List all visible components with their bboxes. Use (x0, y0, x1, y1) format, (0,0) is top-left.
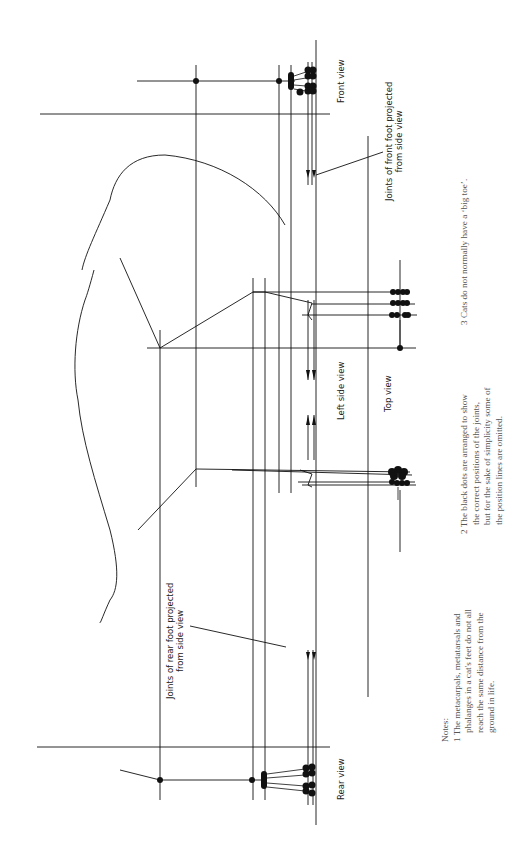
notes-block-3: 3 Cats do not normally have a ‘big toe’. (459, 179, 471, 325)
note1-line3: reach the same distance from the (475, 609, 487, 742)
note2-line3: but for the sake of simplicity some of (482, 387, 494, 534)
body-outline-lower (75, 300, 117, 623)
note2-line2: the correct positions of the joints, (471, 387, 483, 534)
body-outline-upper-break (85, 270, 94, 300)
notes-block-2: 2 The black dots are arranged to show th… (459, 387, 505, 534)
note1-line2: phalanges in a cat's feet do not all (463, 609, 475, 742)
top-view-label: Top view (384, 375, 394, 412)
front-joints-label: Joints of front foot projected from side… (385, 82, 405, 201)
arrow-head (306, 370, 310, 380)
body-outline-curve (82, 155, 285, 270)
notes-heading: Notes: (440, 609, 452, 742)
arrow-head (312, 415, 316, 425)
arrow-head (306, 652, 310, 660)
arrow-head (312, 370, 316, 380)
note3-line1: 3 Cats do not normally have a ‘big toe’. (459, 179, 471, 325)
note2-line1: 2 The black dots are arranged to show (459, 387, 471, 534)
front-leg-bones (120, 258, 312, 348)
note1-line1: 1 The metacarpals, metatarsals and (452, 609, 464, 742)
left-side-view-label: Left side view (337, 362, 347, 420)
rear-joints-label-line2: from side view (176, 583, 186, 699)
front-joints-leader (316, 152, 383, 175)
arrow-head (306, 415, 310, 425)
joint-dots (157, 67, 411, 797)
rear-upper-bone (138, 469, 196, 530)
arrow-head (306, 170, 310, 178)
note1-line4: ground in life. (486, 609, 498, 742)
arrow-head (312, 170, 316, 178)
rear-view-label: Rear view (337, 758, 347, 800)
note2-line4: the position lines are omitted. (494, 387, 506, 534)
notes-block-1: Notes: 1 The metacarpals, metatarsals an… (440, 609, 498, 742)
rear-joints-leader (190, 626, 286, 647)
rear-joints-label: Joints of rear foot projected from side … (166, 583, 186, 699)
front-view-label: Front view (337, 59, 347, 103)
orthographic-cat-foot-diagram: Front view Joints of front foot projecte… (0, 0, 525, 862)
rear-view-upper-bone (120, 770, 160, 780)
front-joints-label-line2: from side view (395, 82, 405, 201)
